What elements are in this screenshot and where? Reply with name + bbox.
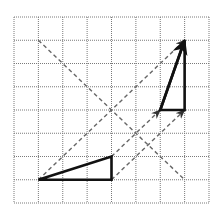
rotation-diagram [0, 0, 215, 207]
solid-arrow [160, 40, 184, 110]
original-triangle [38, 157, 111, 180]
